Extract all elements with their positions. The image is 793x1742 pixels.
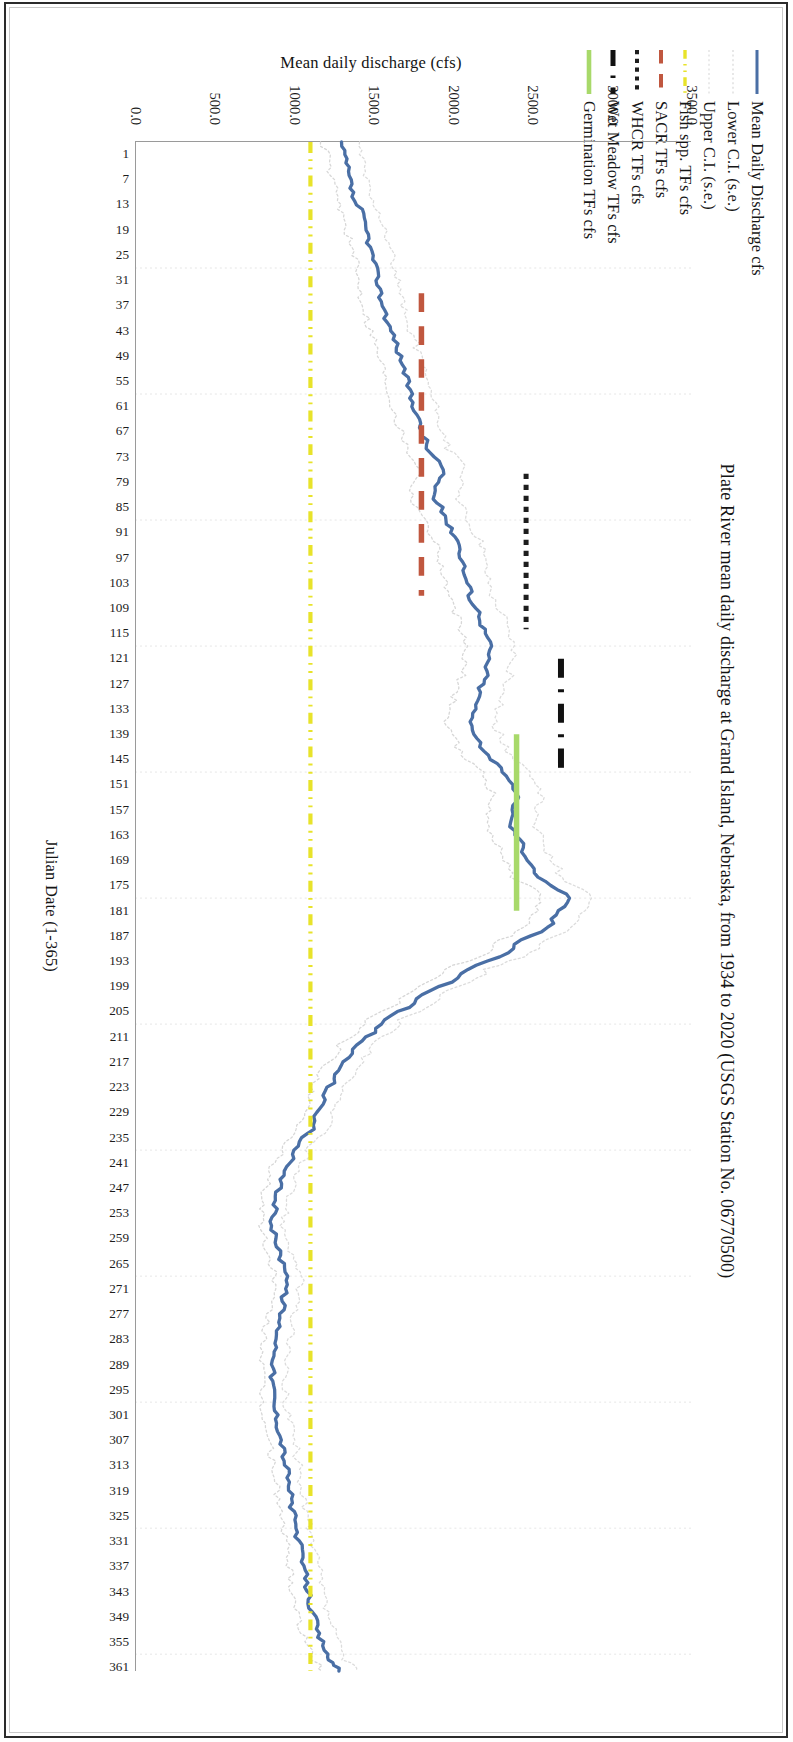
- x-axis-tick-label: 49: [115, 348, 128, 364]
- x-axis-tick-label: 271: [109, 1281, 129, 1297]
- x-axis-tick-label: 181: [109, 903, 129, 919]
- y-axis-tick-label: 2000.0: [444, 85, 461, 125]
- x-axis-tick-label: 145: [109, 751, 129, 767]
- x-axis-tick-label: 289: [109, 1357, 129, 1373]
- data-series-line: [279, 142, 591, 1671]
- x-axis-tick-label: 157: [109, 802, 129, 818]
- x-axis-tick-label: 283: [109, 1331, 129, 1347]
- legend-item[interactable]: Mean Daily Discharge cfs: [747, 49, 767, 276]
- data-series-line: [258, 142, 540, 1671]
- x-axis-tick-label: 7: [122, 171, 129, 187]
- x-axis-tick-label: 349: [109, 1609, 129, 1625]
- chart-figure: Mean Daily Discharge cfsLower C.I. (s.e.…: [17, 21, 777, 1721]
- y-axis-tick-label: 1500.0: [364, 85, 381, 125]
- x-axis-ticks: 1713192531374349556167737985919710310911…: [57, 141, 131, 1671]
- x-axis-tick-label: 235: [109, 1130, 129, 1146]
- x-axis-tick-label: 247: [109, 1180, 129, 1196]
- x-axis-tick-label: 31: [115, 272, 128, 288]
- y-axis-tick-label: 2500.0: [523, 85, 540, 125]
- x-axis-tick-label: 139: [109, 726, 129, 742]
- x-axis-tick-label: 133: [109, 701, 129, 717]
- x-axis-tick-label: 85: [115, 499, 128, 515]
- x-axis-tick-label: 199: [109, 978, 129, 994]
- y-axis-tick-label: 0.0: [126, 107, 143, 125]
- x-axis-tick-label: 301: [109, 1407, 129, 1423]
- x-axis-tick-label: 115: [109, 625, 128, 641]
- x-axis-tick-label: 121: [109, 650, 129, 666]
- x-axis-tick-label: 361: [109, 1659, 129, 1675]
- x-axis-tick-label: 253: [109, 1205, 129, 1221]
- x-axis-tick-label: 193: [109, 953, 129, 969]
- plot-area: [135, 141, 691, 1671]
- x-axis-title: Julian Date (1-365): [41, 141, 61, 1671]
- chart-title: Plate River mean daily discharge at Gran…: [716, 21, 737, 1721]
- x-axis-tick-label: 79: [115, 474, 128, 490]
- x-axis-tick-label: 163: [109, 827, 129, 843]
- plot-svg: [136, 142, 691, 1671]
- x-axis-tick-label: 97: [115, 550, 128, 566]
- x-axis-tick-label: 295: [109, 1382, 129, 1398]
- x-axis-tick-label: 169: [109, 852, 129, 868]
- y-axis-ticks: Mean daily discharge (cfs) 3500.03000.02…: [135, 21, 691, 133]
- x-axis-tick-label: 61: [115, 398, 128, 414]
- x-axis-tick-label: 343: [109, 1584, 129, 1600]
- x-axis-tick-label: 13: [115, 196, 128, 212]
- x-axis-tick-label: 1: [122, 146, 129, 162]
- y-axis-tick-label: 500.0: [205, 92, 222, 125]
- x-axis-tick-label: 67: [115, 423, 128, 439]
- x-axis-tick-label: 355: [109, 1634, 129, 1650]
- x-axis-tick-label: 19: [115, 222, 128, 238]
- x-axis-tick-label: 325: [109, 1508, 129, 1524]
- x-axis-tick-label: 313: [109, 1457, 129, 1473]
- x-axis-tick-label: 331: [109, 1533, 129, 1549]
- x-axis-tick-label: 43: [115, 323, 128, 339]
- x-axis-tick-label: 73: [115, 449, 128, 465]
- x-axis-tick-label: 187: [109, 928, 129, 944]
- x-axis-tick-label: 307: [109, 1432, 129, 1448]
- figure-rotated-container: Mean Daily Discharge cfsLower C.I. (s.e.…: [17, 21, 777, 1721]
- x-axis-tick-label: 175: [109, 877, 129, 893]
- scanned-page: Mean Daily Discharge cfsLower C.I. (s.e.…: [0, 0, 793, 1742]
- y-axis-tick-label: 1000.0: [285, 85, 302, 125]
- x-axis-tick-label: 25: [115, 247, 128, 263]
- x-axis-tick-label: 91: [115, 524, 128, 540]
- x-axis-tick-label: 277: [109, 1306, 129, 1322]
- x-axis-tick-label: 55: [115, 373, 128, 389]
- x-axis-tick-label: 211: [109, 1029, 128, 1045]
- x-axis-tick-label: 337: [109, 1558, 129, 1574]
- x-axis-tick-label: 127: [109, 676, 129, 692]
- y-axis-tick-label: 3500.0: [682, 85, 699, 125]
- x-axis-tick-label: 265: [109, 1256, 129, 1272]
- x-axis-tick-label: 319: [109, 1483, 129, 1499]
- x-axis-tick-label: 103: [109, 575, 129, 591]
- y-axis-title: Mean daily discharge (cfs): [161, 53, 581, 73]
- x-axis-tick-label: 151: [109, 776, 129, 792]
- x-axis-tick-label: 109: [109, 600, 129, 616]
- x-axis-tick-label: 217: [109, 1054, 129, 1070]
- y-axis-tick-label: 3000.0: [603, 85, 620, 125]
- x-axis-tick-label: 241: [109, 1155, 129, 1171]
- legend-item-label: Mean Daily Discharge cfs: [747, 101, 767, 276]
- x-axis-tick-label: 205: [109, 1003, 129, 1019]
- x-axis-tick-label: 223: [109, 1079, 129, 1095]
- x-axis-tick-label: 259: [109, 1230, 129, 1246]
- x-axis-tick-label: 229: [109, 1104, 129, 1120]
- x-axis-tick-label: 37: [115, 297, 128, 313]
